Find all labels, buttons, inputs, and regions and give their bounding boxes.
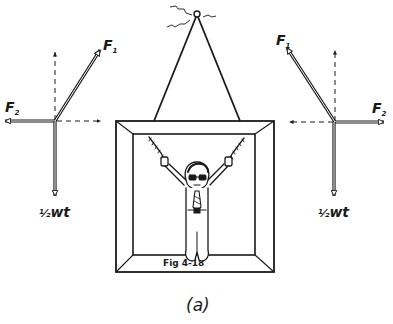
right-horizontal-label: F2 [372, 100, 387, 118]
glasses-icon [189, 175, 196, 180]
hanging-man-illustration [149, 137, 244, 261]
panel-label: Fig 4-18 [163, 258, 204, 268]
wire-left [154, 17, 196, 121]
hanging-assembly [154, 6, 240, 121]
shackle-right-icon [225, 157, 232, 166]
left-weight-label: ½wt [39, 204, 71, 220]
right-force-diagram: F1 F2 ½wt [276, 32, 387, 220]
left-horizontal-label: F2 [5, 99, 20, 117]
left-force-diagram: F1 F2 ½wt [5, 37, 118, 220]
wire-right [198, 17, 240, 121]
belt-buckle-icon [194, 208, 200, 213]
figure-caption: (a) [186, 295, 210, 315]
right-weight-label: ½wt [318, 204, 350, 220]
diagram-canvas: Fig 4-18 [0, 0, 393, 324]
left-tension-label: F1 [103, 37, 118, 55]
nail-hook-icon [194, 11, 200, 17]
crack-marks [167, 6, 216, 27]
right-tension-label: F1 [276, 32, 291, 50]
shackle-left-icon [161, 157, 168, 166]
